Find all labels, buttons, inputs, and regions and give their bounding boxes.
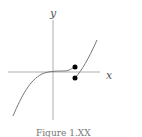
- y-axis-label: y: [49, 7, 57, 20]
- closed-dot-lower: [73, 76, 78, 81]
- figure-caption: Figure 1.XX: [36, 128, 91, 137]
- closed-dot-upper: [73, 65, 78, 70]
- curve-left-branch: [13, 67, 75, 116]
- graph-figure: y x Figure 1.XX: [0, 0, 142, 137]
- x-axis-label: x: [106, 69, 113, 82]
